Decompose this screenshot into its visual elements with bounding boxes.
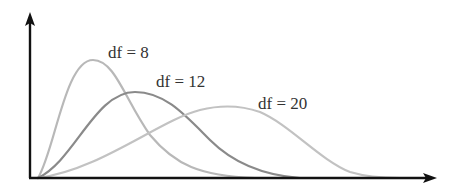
curve-df-20 bbox=[38, 106, 400, 178]
label-df-12: df = 12 bbox=[156, 72, 205, 91]
chi-square-chart: df = 8 df = 12 df = 20 bbox=[0, 0, 450, 187]
label-df-8: df = 8 bbox=[108, 43, 149, 62]
label-df-20: df = 20 bbox=[258, 94, 307, 113]
curve-df-8 bbox=[38, 60, 255, 178]
